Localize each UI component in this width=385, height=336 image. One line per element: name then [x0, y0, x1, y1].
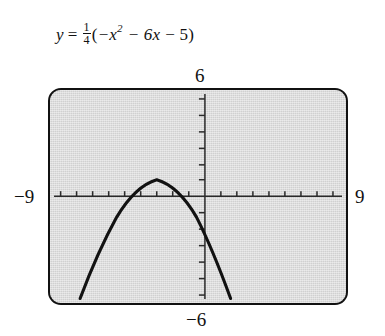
equation-lhs: y [56, 26, 64, 43]
fraction-denominator: 4 [83, 33, 91, 46]
x-max-label: 9 [355, 187, 365, 206]
equation-term-2: − 6x [128, 26, 161, 43]
y-min-label: −6 [186, 310, 206, 329]
x-axis-ticks [61, 191, 333, 196]
equation-term-3: − 5 [165, 26, 188, 43]
y-max-label: 6 [195, 66, 205, 85]
calculator-screen [48, 88, 348, 305]
equation-term-1-exponent: 2 [117, 22, 123, 34]
equation-caption: y=14(−x2− 6x− 5) [56, 22, 194, 47]
figure-root: y=14(−x2− 6x− 5) [0, 0, 385, 336]
graph-plot [50, 90, 346, 303]
axes [54, 94, 342, 299]
fraction-one-fourth: 14 [83, 21, 91, 46]
parabola-curve [80, 180, 231, 299]
fraction-numerator: 1 [83, 21, 91, 33]
equation-term-1: −x [98, 26, 117, 43]
x-min-label: −9 [14, 187, 34, 206]
close-paren: ) [188, 26, 194, 43]
y-axis-ticks [199, 99, 205, 295]
equation-equals: = [68, 26, 78, 43]
